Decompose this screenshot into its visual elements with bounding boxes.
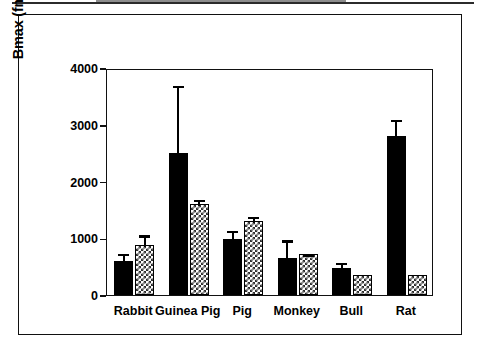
category-label-rabbit: Rabbit [114,304,153,318]
error-bar-cap [303,254,314,257]
bar-bull-solid-black [332,268,351,295]
error-bar-stem [286,240,288,259]
category-label-monkey: Monkey [273,304,320,318]
bar-rabbit-checkered-gray [135,245,154,295]
bar-pig-solid-black [223,239,242,295]
error-bar-cap [248,217,259,220]
error-bar-cap [336,263,347,266]
category-label-guinea-pig: Guinea Pig [155,304,220,318]
plot-area [106,69,433,296]
error-bar-cap [227,231,238,234]
bar-rat-checkered-gray [408,275,427,295]
bar-guinea-pig-checkered-gray [190,204,209,295]
category-label-rat: Rat [396,304,416,318]
error-bar-stem [395,120,397,138]
bar-monkey-solid-black [278,258,297,295]
figure-frame: Bmax (fmol/mg protein) 01000200030004000… [18,14,462,335]
bar-rat-solid-black [387,136,406,295]
error-bar-cap [118,254,129,257]
bar-bull-checkered-gray [353,275,372,295]
bar-pig-checkered-gray [244,221,263,295]
scan-artifact-rule [12,2,474,4]
error-bar-cap [282,240,293,243]
error-bar-cap [194,200,205,203]
y-axis-tick-label: 0 [54,289,98,303]
y-axis-tick-label: 2000 [54,176,98,190]
error-bar-cap [391,120,402,123]
error-bar-stem [177,86,179,155]
y-axis-label: Bmax (fmol/mg protein) [10,0,26,85]
bar-guinea-pig-solid-black [169,153,188,295]
category-label-pig: Pig [233,304,252,318]
y-axis-tick-label: 3000 [54,119,98,133]
bar-monkey-checkered-gray [299,254,318,295]
error-bar-cap [139,235,150,238]
y-axis-tick-label: 1000 [54,232,98,246]
error-bar-cap [173,86,184,89]
bar-rabbit-solid-black [114,261,133,295]
category-label-bull: Bull [339,304,363,318]
y-axis-tick-label: 4000 [54,62,98,76]
